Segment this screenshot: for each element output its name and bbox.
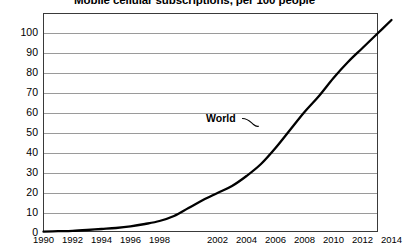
- gridline-30: [44, 173, 377, 174]
- y-tick-label-40: 40: [0, 147, 38, 158]
- gridline-80: [44, 73, 377, 74]
- x-tick-label-1998: 1998: [140, 234, 180, 245]
- series-annotation-world: World: [206, 113, 236, 124]
- gridline-70: [44, 93, 377, 94]
- y-tick-label-20: 20: [0, 187, 38, 198]
- y-tick-label-10: 10: [0, 207, 38, 218]
- x-tick-label-2014: 2014: [372, 234, 407, 245]
- y-tick-label-70: 70: [0, 87, 38, 98]
- y-tick-label-50: 50: [0, 127, 38, 138]
- y-tick-label-100: 100: [0, 27, 38, 38]
- y-tick-label-80: 80: [0, 67, 38, 78]
- gridline-40: [44, 153, 377, 154]
- y-tick-label-90: 90: [0, 47, 38, 58]
- gridline-10: [44, 213, 377, 214]
- gridline-90: [44, 53, 377, 54]
- chart-title: Mobile cellular subscriptions, per 100 p…: [0, 0, 389, 7]
- y-tick-label-30: 30: [0, 167, 38, 178]
- y-tick-label-60: 60: [0, 107, 38, 118]
- gridline-50: [44, 133, 377, 134]
- gridline-100: [44, 33, 377, 34]
- gridline-20: [44, 193, 377, 194]
